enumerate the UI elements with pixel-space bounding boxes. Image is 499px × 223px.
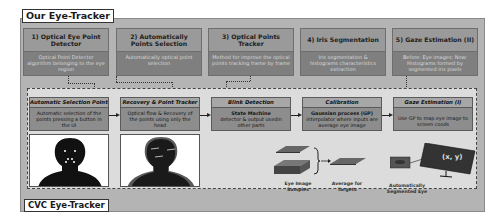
connector-line	[68, 76, 69, 83]
step-title: 5) Gaze Estimation (II)	[393, 29, 477, 52]
cvc-recovery-point-tracker: Recovery & Point Tracker Optical flow & …	[120, 97, 200, 131]
step-description: Automatic selection of the points pressi…	[30, 108, 108, 128]
head-silhouette-points-image	[29, 134, 109, 187]
connector-line	[226, 81, 250, 82]
eye-image-samples-caption: Eye Image Samples	[278, 181, 318, 192]
step-description: Use GP to map eye image to screen coods	[394, 108, 472, 127]
cvc-gaze-estimation-i: Gaze Estimation (I) Use GP to map eye im…	[393, 97, 473, 131]
step-title: Gaze Estimation (I)	[394, 98, 472, 108]
monitor-icon	[390, 143, 480, 183]
step-2-automatic-points-selection: 2) Automatically Points Selection Automa…	[116, 28, 202, 76]
connector-line	[116, 82, 172, 83]
arrow-right-icon	[109, 115, 117, 116]
step-description-rest: interpolator where inputs are average ey…	[306, 116, 378, 128]
step-title: 3) Optical Points Tracker	[209, 29, 293, 52]
segmented-eye-caption: Automatically Segmented Eye	[385, 183, 429, 194]
step-description: Optical flow & Recovery of the points us…	[121, 108, 199, 128]
step-3-optical-points-tracker: 3) Optical Points Tracker Method for imp…	[208, 28, 294, 76]
head-silhouette-icon	[30, 135, 109, 187]
step-title: Calibration	[303, 98, 381, 108]
step-description-rest: detector & output usedin other parts	[220, 116, 281, 128]
step-description: Optical Point Detector algorithm belongi…	[24, 52, 108, 72]
cvc-blink-detection: Blink Detection State Machinedetector & …	[211, 97, 291, 131]
step-title: 1) Optical Eye Point Detector	[24, 29, 108, 52]
arrow-right-icon	[200, 115, 208, 116]
step-title: Automatic Selection Points	[30, 98, 108, 108]
step-description: Automatically optical point selection	[117, 52, 201, 66]
step-title: 2) Automatically Points Selection	[117, 29, 201, 52]
head-tracking-icon	[121, 135, 200, 187]
cvc-calibration: Calibration Gaussian process (GP)interpo…	[302, 97, 382, 131]
step-description-bold: State Machine	[231, 110, 271, 116]
step-description-bold: Gaussian process (GP)	[311, 110, 373, 116]
step-title: Blink Detection	[212, 98, 290, 108]
step-description: Gaussian process (GP)interpolator where …	[303, 108, 381, 128]
screen-coordinates-label: (x, y)	[442, 153, 463, 161]
cvc-eye-tracker-title: CVC Eye-Tracker	[24, 199, 109, 212]
our-eye-tracker-title: Our Eye-Tracker	[22, 9, 114, 23]
arrow-right-icon	[382, 115, 390, 116]
step-description: State Machinedetector & output usedin ot…	[212, 108, 290, 128]
connector-line	[250, 76, 251, 81]
eye-image-samples-graphic	[270, 146, 380, 180]
arrow-right-icon	[291, 115, 299, 116]
step-description: Method for improve the optical points tr…	[209, 52, 293, 66]
step-5-gaze-estimation-ii: 5) Gaze Estimation (II) Before: Eye imag…	[392, 28, 478, 76]
connector-line	[68, 83, 95, 84]
step-1-optical-eye-point-detector: 1) Optical Eye Point Detector Optical Po…	[23, 28, 109, 76]
segmented-eye-monitor-graphic	[390, 143, 480, 187]
step-description: Iris segmentation & histograms character…	[301, 52, 385, 72]
step-4-iris-segmentation: 4) Iris Segmentation Iris segmentation &…	[300, 28, 386, 76]
step-title: 4) Iris Segmentation	[301, 29, 385, 52]
step-title: Recovery & Point Tracker	[121, 98, 199, 108]
eye-samples-stack-icon	[270, 146, 380, 176]
average-targets-caption: Average for Targets	[327, 181, 367, 192]
cvc-automatic-selection-points: Automatic Selection Points Automatic sel…	[29, 97, 109, 131]
head-tracking-image	[120, 134, 200, 187]
step-description: Before: Eye images; Now: Histograms form…	[393, 52, 477, 72]
